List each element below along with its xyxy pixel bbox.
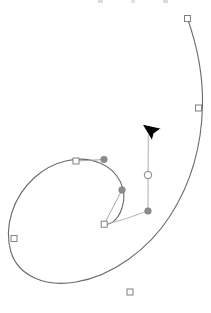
handle-lines-group	[76, 133, 148, 224]
tangent-preview-curve	[104, 211, 148, 224]
spiral-path-stroke[interactable]	[8, 19, 202, 284]
clip-mark-3	[163, 0, 168, 3]
anchor-bottom[interactable]	[127, 289, 133, 295]
handle-dot-circle-out[interactable]	[145, 208, 152, 215]
anchor-end-selected[interactable]	[101, 221, 107, 227]
clip-mark-1	[98, 0, 103, 3]
anchor-right-mid[interactable]	[196, 105, 202, 111]
mouse-cursor-arrow	[142, 117, 164, 141]
clip-mark-2	[131, 0, 135, 3]
anchor-circle-handle[interactable]	[144, 171, 151, 178]
vector-editor-canvas[interactable]: Untitled Path Node tool 2 of 7 nodes sel…	[0, 0, 211, 313]
anchor-top-inner[interactable]	[73, 158, 79, 164]
cursor-arrow-icon	[142, 117, 164, 141]
path-canvas-svg[interactable]	[0, 0, 211, 313]
anchor-nodes-group[interactable]	[11, 16, 202, 296]
handle-line-end-in	[104, 190, 122, 224]
handle-dots-group[interactable]	[101, 156, 152, 214]
anchor-top-right[interactable]	[185, 16, 191, 22]
top-clipped-marks-group	[98, 0, 168, 3]
anchor-left[interactable]	[11, 236, 17, 242]
handle-dot-end-in[interactable]	[119, 187, 126, 194]
handle-dot-top-inner-out[interactable]	[101, 156, 108, 163]
